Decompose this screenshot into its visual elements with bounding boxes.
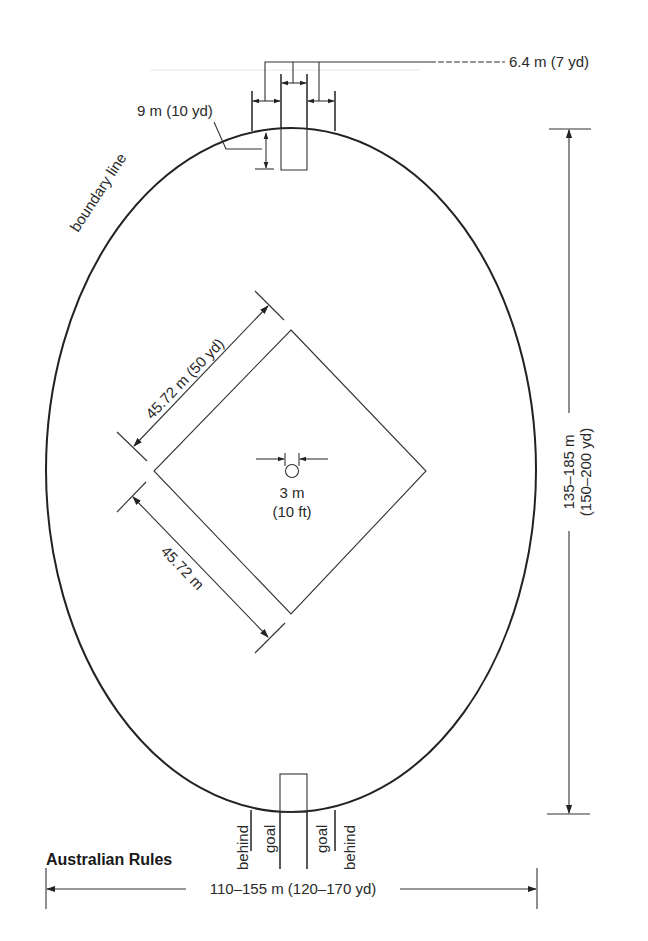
boundary-line-label: boundary line [66, 150, 129, 235]
centre-circle-group: 3 m (10 ft) [256, 453, 328, 520]
centre-square-upper-dimension: 45.72 m (50 yd) [117, 291, 284, 461]
square-side-arrow-upper [134, 306, 268, 446]
boundary-oval [46, 128, 536, 812]
post-label-behind-right: behind [341, 825, 358, 870]
centre-circle-metric-label: 3 m [279, 484, 304, 501]
field-width-label: 110–155 m (120–170 yd) [210, 880, 377, 897]
bottom-goal-square [280, 774, 307, 812]
bottom-goal-area: behind goal goal behind [234, 774, 358, 870]
centre-circle [286, 465, 299, 478]
centre-square-lower-dimension: 45.72 m [117, 482, 285, 653]
top-goal-square [281, 128, 307, 170]
post-label-goal-left: goal [261, 825, 278, 853]
square-side-arrow-lower [133, 497, 268, 637]
figure-title: Australian Rules [46, 851, 172, 868]
bracket-left-leg [265, 62, 430, 101]
extension-tick-top [117, 482, 146, 512]
australian-rules-field-diagram: 6.4 m (7 yd) 9 m (10 yd) boundary line 4… [0, 0, 648, 941]
field-length-dimension: 135–185 m (150–200 yd) [547, 129, 594, 814]
post-label-goal-right: goal [313, 825, 330, 853]
behind-line-label: 9 m (10 yd) [137, 102, 213, 119]
post-label-behind-left: behind [234, 825, 251, 870]
field-length-imperial-label: (150–200 yd) [577, 428, 594, 516]
centre-circle-imperial-label: (10 ft) [272, 503, 311, 520]
field-width-dimension: 110–155 m (120–170 yd) [46, 868, 537, 909]
top-goal-area: 6.4 m (7 yd) 9 m (10 yd) [137, 53, 589, 170]
square-side-short-label: 45.72 m [158, 542, 208, 593]
goal-width-label: 6.4 m (7 yd) [509, 53, 589, 70]
field-length-metric-label: 135–185 m [560, 434, 577, 509]
